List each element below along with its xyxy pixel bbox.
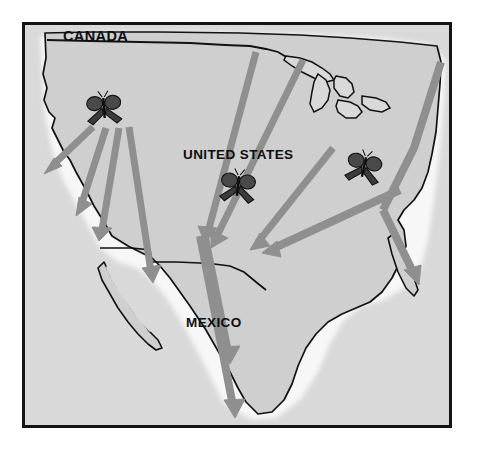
country-label-canada: CANADA [63, 28, 128, 44]
country-label-united-states: UNITED STATES [183, 147, 293, 162]
country-label-mexico: MEXICO [186, 315, 242, 330]
map-canvas [0, 0, 479, 462]
migration-map-figure: CANADA UNITED STATES MEXICO [0, 0, 479, 462]
